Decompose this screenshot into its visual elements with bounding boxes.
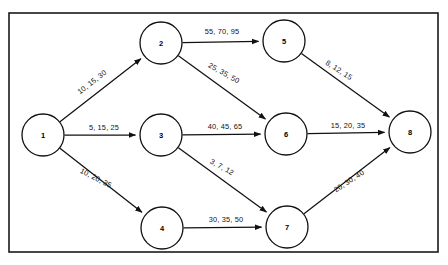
edge-4-to-7 bbox=[183, 227, 261, 228]
node-7[interactable]: 7 bbox=[266, 206, 308, 248]
node-label-7: 7 bbox=[285, 223, 289, 232]
edge-label-7-8: 20, 30, 40 bbox=[332, 168, 366, 194]
edge-2-to-6 bbox=[178, 56, 265, 119]
edge-6-to-8 bbox=[307, 132, 384, 133]
node-8[interactable]: 8 bbox=[389, 111, 431, 153]
network-diagram: 12345678 10, 15, 305, 15, 2510, 20, 3555… bbox=[0, 0, 448, 265]
edge-2-to-5 bbox=[182, 41, 258, 42]
node-label-1: 1 bbox=[41, 131, 45, 140]
diagram-canvas: 12345678 10, 15, 305, 15, 2510, 20, 3555… bbox=[0, 0, 448, 265]
node-label-6: 6 bbox=[284, 130, 288, 139]
edge-label-1-3: 5, 15, 25 bbox=[89, 123, 119, 132]
edge-label-1-4: 10, 20, 35 bbox=[79, 166, 114, 190]
edge-label-3-7: 3, 7, 12 bbox=[209, 157, 236, 177]
edge-label-1-2: 10, 15, 30 bbox=[76, 68, 109, 96]
edge-label-5-8: 8, 12, 15 bbox=[324, 58, 354, 82]
edge-3-to-6 bbox=[182, 134, 260, 135]
node-5[interactable]: 5 bbox=[263, 20, 305, 62]
node-label-3: 3 bbox=[159, 131, 163, 140]
edge-1-to-2 bbox=[60, 59, 141, 122]
node-6[interactable]: 6 bbox=[265, 113, 307, 155]
node-3[interactable]: 3 bbox=[140, 114, 182, 156]
node-label-5: 5 bbox=[282, 37, 286, 46]
node-label-8: 8 bbox=[408, 128, 412, 137]
node-label-2: 2 bbox=[159, 39, 163, 48]
edge-3-to-7 bbox=[178, 148, 266, 212]
edge-5-to-8 bbox=[301, 54, 389, 117]
edge-label-3-6: 40, 45, 65 bbox=[208, 122, 242, 131]
edge-label-4-7: 30, 35, 50 bbox=[209, 215, 243, 224]
node-2[interactable]: 2 bbox=[140, 22, 182, 64]
node-4[interactable]: 4 bbox=[141, 207, 183, 249]
edge-label-2-5: 55, 70, 95 bbox=[205, 27, 239, 36]
edge-label-6-8: 15, 20, 35 bbox=[331, 121, 365, 130]
node-1[interactable]: 1 bbox=[22, 114, 64, 156]
edge-label-2-6: 25, 35, 50 bbox=[207, 61, 241, 86]
